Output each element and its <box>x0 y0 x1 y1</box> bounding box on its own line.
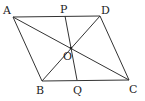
segment-AD <box>13 16 100 17</box>
label-Q: Q <box>73 84 82 97</box>
label-D: D <box>101 4 110 17</box>
segment-AB <box>13 17 42 81</box>
segment-DC <box>100 16 129 80</box>
label-A: A <box>2 4 12 17</box>
geometry-diagram: A P D O B Q C <box>0 0 145 101</box>
label-O: O <box>63 50 72 63</box>
point-O-dot <box>70 47 73 50</box>
label-B: B <box>36 84 44 97</box>
segment-BC <box>42 80 129 81</box>
label-C: C <box>129 83 137 96</box>
label-P: P <box>60 3 68 16</box>
